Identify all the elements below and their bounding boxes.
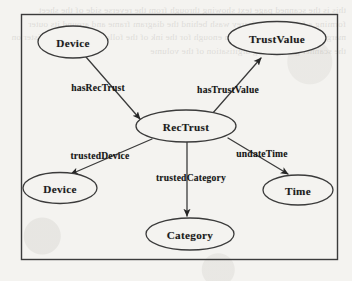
edge-label-has-rec-trust: hasRecTrust	[71, 82, 125, 93]
node-label-category: Category	[167, 229, 214, 241]
node-label-device-top: Device	[56, 37, 89, 49]
node-label-device-bottom: Device	[43, 183, 76, 195]
node-label-trustvalue: TrustValue	[249, 33, 305, 45]
node-label-time: Time	[285, 185, 311, 197]
node-label-rectrust: RecTrust	[163, 121, 209, 133]
labels-layer: hasRecTrusthasTrustValuetrustedDevicetru…	[0, 0, 352, 281]
edge-label-undate-time: undateTime	[236, 148, 287, 159]
edge-label-trusted-category: trustedCategory	[156, 172, 226, 183]
edge-label-trusted-device: trustedDevice	[70, 150, 129, 161]
edge-label-has-trust-value: hasTrustValue	[197, 84, 259, 95]
